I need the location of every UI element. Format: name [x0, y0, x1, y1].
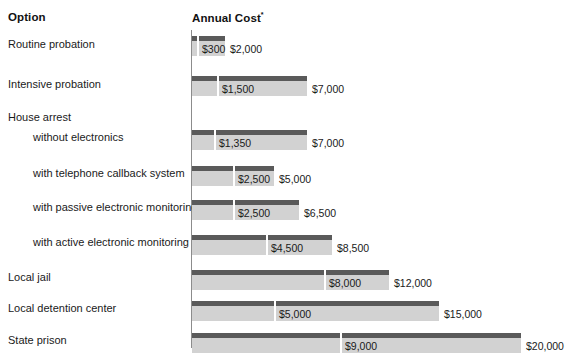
- bar-high-estimate: [192, 270, 389, 275]
- row-label: House arrest: [8, 111, 71, 124]
- bar-high-body: [192, 240, 332, 255]
- high-value-label: $15,000: [444, 308, 482, 320]
- low-value-label: $9,000: [345, 340, 377, 352]
- row-label: without electronics: [33, 131, 124, 144]
- column-header-option: Option: [8, 11, 46, 23]
- column-header-annual-cost: Annual Cost*: [192, 11, 264, 24]
- low-value-divider: [340, 333, 342, 353]
- bar-high-estimate: [192, 301, 439, 306]
- high-value-label: $7,000: [312, 137, 344, 149]
- bar-high-estimate: [192, 130, 307, 135]
- low-value-label: $2,500: [238, 207, 270, 219]
- low-value-divider: [274, 301, 276, 321]
- bar-high-estimate: [192, 235, 332, 240]
- high-value-label: $12,000: [394, 277, 432, 289]
- row-label: with active electronic monitoring: [33, 236, 189, 249]
- row-label: Intensive probation: [8, 78, 101, 91]
- low-value-label: $1,350: [219, 137, 251, 149]
- row-label: with passive electronic monitoring: [33, 201, 197, 214]
- low-value-divider: [197, 36, 199, 56]
- low-value-divider: [214, 130, 216, 150]
- row-label: State prison: [8, 334, 67, 347]
- row-label: Local jail: [8, 271, 51, 284]
- low-value-label: $1,500: [222, 83, 254, 95]
- low-value-label: $300: [202, 43, 225, 55]
- low-value-divider: [266, 235, 268, 255]
- footnote-marker: *: [261, 11, 264, 18]
- high-value-label: $20,000: [526, 340, 564, 352]
- low-value-label: $5,000: [279, 308, 311, 320]
- low-value-label: $8,000: [329, 277, 361, 289]
- bar-high-estimate: [192, 200, 299, 205]
- bar-high-estimate: [192, 76, 307, 81]
- bar-high-body: [192, 306, 439, 321]
- bar-high-estimate: [192, 333, 521, 338]
- low-value-divider: [217, 76, 219, 96]
- low-value-divider: [324, 270, 326, 290]
- low-value-divider: [233, 166, 235, 186]
- cost-comparison-chart: Option Annual Cost* Routine probation$30…: [0, 0, 579, 364]
- column-header-annual-cost-text: Annual Cost: [192, 12, 261, 24]
- row-label: Routine probation: [8, 38, 95, 51]
- high-value-label: $5,000: [279, 173, 311, 185]
- high-value-label: $8,500: [337, 242, 369, 254]
- high-value-label: $6,500: [304, 207, 336, 219]
- high-value-label: $2,000: [230, 43, 262, 55]
- low-value-divider: [233, 200, 235, 220]
- low-value-label: $4,500: [271, 242, 303, 254]
- low-value-label: $2,500: [238, 173, 270, 185]
- row-label: with telephone callback system: [33, 167, 185, 180]
- high-value-label: $7,000: [312, 83, 344, 95]
- row-label: Local detention center: [8, 302, 116, 315]
